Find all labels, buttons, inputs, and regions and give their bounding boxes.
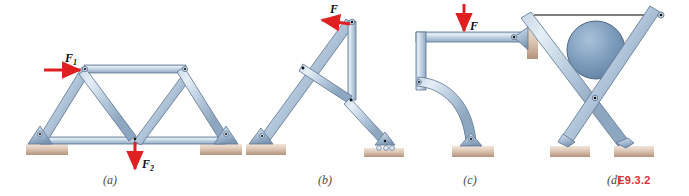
joint-a-top-right-dot (184, 68, 186, 70)
force-sublabel-a-f2: 2 (149, 164, 154, 173)
joint-b-lower-vertical-dot (350, 99, 353, 102)
joint-c-ground-pin-dot (470, 138, 472, 140)
roller-wheel-b-2 (384, 146, 389, 151)
ground-block-d-right (614, 146, 654, 157)
member-a-right-diagonal (177, 67, 228, 142)
ground-block-d-left (550, 146, 590, 157)
engineering-figure-svg: F 1 F 2 (a) F ( (0, 0, 689, 196)
figure-id-label: E9.3.2 (617, 174, 651, 186)
joint-d-center-pin-dot (594, 97, 597, 100)
roller-wheel-b-3 (390, 146, 395, 151)
force-label-c-f: F (469, 19, 478, 33)
ground-block-a-right (200, 144, 242, 155)
ground-block-a-left (26, 144, 68, 155)
member-a-web-diagonal-2 (134, 73, 191, 145)
joint-a-bottom-mid-dot (134, 138, 137, 141)
figure-container: F 1 F 2 (a) F ( (0, 0, 689, 196)
panel-caption-b: (b) (318, 173, 332, 187)
member-a-top-chord (84, 65, 186, 73)
panel-caption-a: (a) (103, 173, 117, 187)
joint-pin-b-left-dot (261, 135, 263, 137)
member-b-long-diagonal (260, 19, 354, 143)
joint-c-wall-pin-dot (513, 36, 515, 38)
panel-a-truss: F 1 F 2 (a) (26, 51, 242, 187)
roller-wheel-b-1 (377, 146, 382, 151)
panel-b-frame: F (b) (246, 2, 404, 187)
joint-a-top-left-dot (84, 68, 86, 70)
ground-block-c (452, 146, 494, 157)
force-sublabel-a-f1: 1 (73, 58, 77, 67)
panel-caption-c: (c) (463, 173, 476, 187)
force-label-a-f1: F (64, 51, 73, 65)
force-label-a-f2: F (141, 157, 150, 171)
joint-pin-a-left-dot (39, 133, 41, 135)
joint-b-roller-dot (384, 140, 386, 142)
member-c-curved (417, 77, 476, 142)
joint-c-elbow-dot (418, 81, 420, 83)
joint-d-top-right-dot (660, 14, 663, 17)
member-b-vertical (348, 21, 356, 100)
joint-b-mid-diagonal-dot (302, 67, 305, 70)
member-a-web-diagonal-1 (79, 69, 136, 141)
joint-b-apex-dot (351, 21, 353, 23)
ground-block-b-left (246, 144, 286, 155)
member-c-horizontal (416, 32, 524, 42)
panel-d-scissor-frame: (d) (521, 6, 664, 187)
panel-c-curved-frame: F (c) (416, 4, 538, 187)
joint-pin-a-right-dot (225, 133, 227, 135)
force-label-b-f: F (329, 2, 338, 16)
